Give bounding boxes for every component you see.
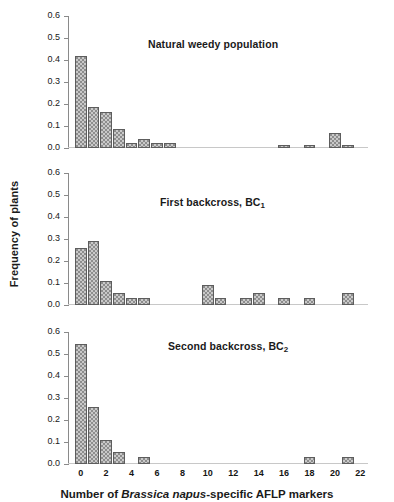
x-axis-tick-labels: 0246810121416182022 — [68, 468, 368, 482]
panel-title-0: Natural weedy population — [148, 38, 278, 50]
x-tick-label: 10 — [203, 468, 213, 478]
bar — [253, 293, 265, 305]
y-tick-0: 0.5 — [64, 38, 69, 39]
figure-histogram-panels: Frequency of plants 0.00.10.20.30.40.50.… — [0, 0, 394, 502]
x-tick-label: 18 — [305, 468, 315, 478]
y-tick-label: 0.6 — [47, 326, 60, 337]
bar — [138, 298, 150, 305]
y-tick-label: 0.2 — [47, 98, 60, 109]
bar — [113, 452, 125, 464]
x-tick-label: 12 — [228, 468, 238, 478]
y-tick-1: 0.0 — [64, 305, 69, 306]
y-tick-0: 0.0 — [64, 148, 69, 149]
plot-area-0: 0.00.10.20.30.40.50.6 — [68, 16, 368, 148]
bar-series-1 — [68, 173, 368, 305]
bar — [304, 298, 316, 305]
y-tick-label: 0.5 — [47, 189, 60, 200]
bar — [342, 293, 354, 305]
bar — [88, 407, 100, 464]
y-tick-label: 0.3 — [47, 76, 60, 87]
bar — [126, 298, 138, 305]
y-tick-2: 0.4 — [64, 376, 69, 377]
bar — [215, 298, 227, 305]
y-tick-2: 0.3 — [64, 398, 69, 399]
bar — [88, 107, 100, 148]
y-axis-title: Frequency of plants — [8, 154, 20, 314]
bar — [100, 112, 112, 148]
bar — [75, 248, 87, 305]
plot-area-1: 0.00.10.20.30.40.50.6 — [68, 173, 368, 305]
bar — [240, 298, 252, 305]
bar — [342, 145, 354, 148]
x-tick-label: 20 — [330, 468, 340, 478]
y-tick-0: 0.6 — [64, 16, 69, 17]
y-tick-2: 0.5 — [64, 354, 69, 355]
y-tick-0: 0.2 — [64, 104, 69, 105]
panel-title-1: First backcross, BC1 — [160, 196, 265, 208]
bar — [164, 143, 176, 149]
y-tick-label: 0.4 — [47, 54, 60, 65]
bar — [304, 457, 316, 464]
y-tick-label: 0.1 — [47, 120, 60, 131]
y-tick-label: 0.3 — [47, 392, 60, 403]
x-tick-label: 4 — [129, 468, 134, 478]
x-tick-label: 6 — [154, 468, 159, 478]
y-tick-0: 0.3 — [64, 82, 69, 83]
panel-title-2: Second backcross, BC2 — [168, 340, 288, 352]
x-tick-label: 8 — [180, 468, 185, 478]
x-tick-label: 0 — [78, 468, 83, 478]
bar — [126, 143, 138, 149]
y-tick-label: 0.2 — [47, 255, 60, 266]
bar — [342, 457, 354, 464]
x-axis-title-suffix: -specific AFLP markers — [206, 488, 333, 500]
y-tick-label: 0.0 — [47, 142, 60, 153]
bar — [278, 145, 290, 148]
bar — [75, 56, 87, 148]
x-tick-label: 16 — [279, 468, 289, 478]
y-tick-label: 0.0 — [47, 299, 60, 310]
y-tick-label: 0.5 — [47, 32, 60, 43]
bar — [151, 143, 163, 149]
y-tick-label: 0.3 — [47, 233, 60, 244]
y-tick-label: 0.6 — [47, 167, 60, 178]
y-tick-label: 0.6 — [47, 10, 60, 21]
bar — [202, 285, 214, 305]
bar — [88, 241, 100, 305]
y-tick-1: 0.3 — [64, 239, 69, 240]
y-tick-1: 0.5 — [64, 195, 69, 196]
y-tick-label: 0.0 — [47, 458, 60, 469]
y-tick-label: 0.4 — [47, 370, 60, 381]
x-tick-label: 14 — [254, 468, 264, 478]
y-tick-label: 0.1 — [47, 436, 60, 447]
panel-title-subscript: 1 — [261, 201, 266, 210]
y-tick-2: 0.2 — [64, 420, 69, 421]
bar — [113, 129, 125, 148]
y-tick-1: 0.4 — [64, 217, 69, 218]
x-axis-title-prefix: Number of — [61, 488, 122, 500]
panel-title-subscript: 2 — [284, 345, 289, 354]
y-tick-1: 0.1 — [64, 283, 69, 284]
bar — [100, 281, 112, 305]
bar — [138, 139, 150, 148]
y-tick-0: 0.4 — [64, 60, 69, 61]
y-tick-1: 0.2 — [64, 261, 69, 262]
bar-series-0 — [68, 16, 368, 148]
y-tick-label: 0.1 — [47, 277, 60, 288]
y-tick-2: 0.0 — [64, 464, 69, 465]
x-axis-title-species: Brassica napus — [121, 488, 206, 500]
bar — [75, 344, 87, 464]
bar — [100, 440, 112, 464]
y-tick-label: 0.2 — [47, 414, 60, 425]
y-tick-label: 0.5 — [47, 348, 60, 359]
y-tick-0: 0.1 — [64, 126, 69, 127]
y-tick-2: 0.6 — [64, 332, 69, 333]
x-axis-title: Number of Brassica napus-specific AFLP m… — [0, 488, 394, 500]
bar — [138, 457, 150, 464]
y-tick-2: 0.1 — [64, 442, 69, 443]
x-tick-label: 2 — [104, 468, 109, 478]
y-tick-label: 0.4 — [47, 211, 60, 222]
bar — [278, 298, 290, 305]
y-tick-1: 0.6 — [64, 173, 69, 174]
x-tick-label: 22 — [355, 468, 365, 478]
bar — [113, 293, 125, 305]
